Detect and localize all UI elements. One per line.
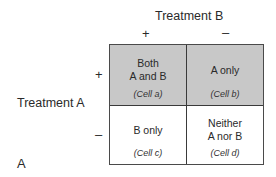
row-sign-minus: – [95, 127, 102, 142]
cell-a: Both A and B (Cell a) [110, 45, 186, 105]
panel-label: A [17, 156, 26, 171]
cell-d-tag: (Cell d) [187, 148, 263, 158]
cell-d: Neither A nor B (Cell d) [187, 106, 263, 164]
cell-c-tag: (Cell c) [110, 148, 186, 158]
cell-d-line2: A nor B [187, 130, 263, 143]
column-header-treatment-b: Treatment B [155, 9, 223, 23]
cell-c-line1: B only [110, 124, 186, 137]
row-header-treatment-a: Treatment A [17, 96, 85, 110]
cell-b-tag: (Cell b) [187, 89, 263, 99]
cell-d-line1: Neither [187, 117, 263, 130]
cell-a-line2: A and B [110, 70, 186, 83]
cell-a-line1: Both [110, 57, 186, 70]
column-sign-minus: – [222, 25, 229, 40]
cell-b: A only (Cell b) [187, 45, 263, 105]
cell-c: B only (Cell c) [110, 106, 186, 164]
cell-b-line1: A only [187, 64, 263, 77]
column-sign-plus: + [142, 26, 150, 41]
contingency-grid: Both A and B (Cell a) A only (Cell b) B … [109, 44, 264, 165]
row-sign-plus: + [95, 67, 103, 82]
cell-a-tag: (Cell a) [110, 89, 186, 99]
grid-horizontal-divider [110, 105, 263, 106]
